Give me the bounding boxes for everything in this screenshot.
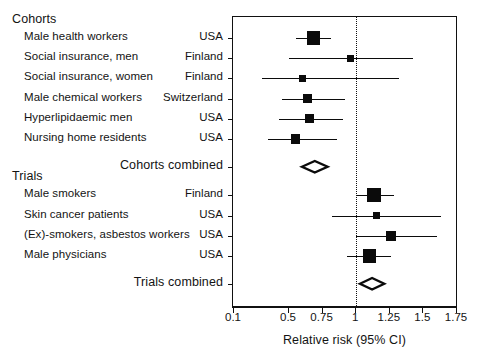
row-tick [228,119,233,120]
null-effect-line [356,17,357,306]
study-label: Male smokers [24,187,96,199]
study-label: Social insurance, women [24,70,153,82]
study-label: Social insurance, men [24,50,138,62]
row-tick [228,167,233,168]
study-country: USA [199,131,223,143]
group-heading-trials: Trials [12,169,43,183]
row-tick [228,195,233,196]
point-estimate-box [305,114,314,123]
point-estimate-box [347,55,354,62]
x-axis-tick-label: 1.75 [445,311,468,323]
study-country: USA [199,30,223,42]
study-country: USA [199,111,223,123]
study-label: Male physicians [24,248,107,260]
combined-label: Cohorts combined [120,158,223,172]
plot-area [232,16,457,307]
forest-plot-figure: Cohorts Trials Male health workersUSASoc… [0,0,477,364]
point-estimate-box [373,212,380,219]
x-axis-tick-label: 1 [352,311,358,323]
study-country: Finland [185,70,223,82]
study-country: Finland [185,50,223,62]
x-axis-title: Relative risk (95% CI) [232,333,457,347]
study-label: (Ex)-smokers, asbestos workers [24,228,190,240]
row-tick [228,236,233,237]
row-tick [228,38,233,39]
confidence-interval-line [262,78,400,79]
row-tick [228,99,233,100]
study-label: Male chemical workers [24,91,142,103]
study-label: Skin cancer patients [24,208,129,220]
point-estimate-box [367,188,381,202]
confidence-interval-line [332,216,441,217]
confidence-interval-line [356,236,437,237]
study-country: USA [199,248,223,260]
summary-diamond [360,278,384,290]
row-tick [228,139,233,140]
point-estimate-box [291,134,300,143]
row-tick [228,256,233,257]
study-label-column: Cohorts Trials Male health workersUSASoc… [0,0,232,364]
confidence-interval-line [282,99,345,100]
study-country: USA [199,208,223,220]
study-country: Switzerland [163,91,223,103]
x-axis-tick-label: 0.5 [280,311,296,323]
x-axis-tick-label: 0.1 [225,311,241,323]
x-axis-tick-label: 1.25 [378,311,401,323]
confidence-interval-line [268,139,337,140]
row-tick [228,58,233,59]
row-tick [228,284,233,285]
group-heading-cohorts: Cohorts [12,12,56,26]
point-estimate-box [307,31,320,44]
x-axis-tick-label: 0.75 [310,311,333,323]
study-label: Male health workers [24,30,128,42]
summary-diamond [302,161,328,173]
x-axis-tick-label: 1.5 [414,311,430,323]
point-estimate-box [303,94,312,103]
study-country: USA [199,228,223,240]
study-label: Hyperlipidaemic men [24,111,132,123]
point-estimate-box [386,231,396,241]
point-estimate-box [299,75,306,82]
combined-label: Trials combined [134,275,223,289]
row-tick [228,216,233,217]
row-tick [228,78,233,79]
study-country: Finland [185,187,223,199]
study-label: Nursing home residents [24,131,147,143]
point-estimate-box [363,249,376,262]
